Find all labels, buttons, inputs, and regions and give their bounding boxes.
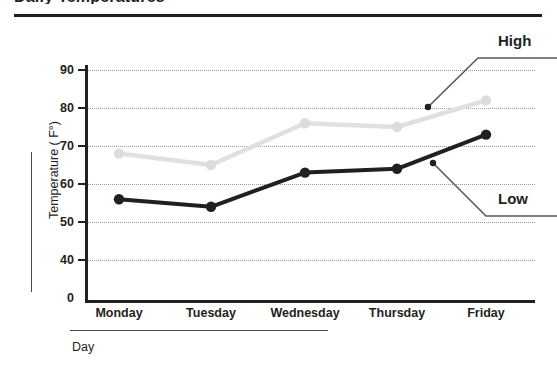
high-point-monday [114,148,124,158]
high-series-label: High [498,32,531,49]
y-tick-label-80: 80 [40,101,74,115]
x-axis-line [85,300,535,303]
title-divider [14,14,542,17]
x-axis-title-rule [70,330,328,331]
x-tick-label-monday: Monday [78,306,160,320]
y-tick-mark-90 [78,69,85,71]
series-layer [88,65,535,300]
y-tick-mark-40 [78,259,85,261]
y-tick-label-90: 90 [40,63,74,77]
chart-root: Daily Temperatures Temperature ( F°) 90 … [0,0,557,368]
y-tick-label-70: 70 [40,139,74,153]
y-tick-mark-60 [78,183,85,185]
x-axis-title: Day [72,340,94,354]
y-tick-mark-70 [78,145,85,147]
y-tick-label-60: 60 [40,177,74,191]
x-tick-label-tuesday: Tuesday [170,306,252,320]
high-point-friday [481,95,491,105]
y-tick-mark-50 [78,221,85,223]
low-point-monday [114,194,124,204]
y-axis-title-rule [31,152,32,292]
low-point-tuesday [206,202,216,212]
x-tick-label-thursday: Thursday [354,306,440,320]
low-point-wednesday [300,167,310,177]
y-tick-label-40: 40 [40,253,74,267]
y-tick-label-50: 50 [40,215,74,229]
y-tick-mark-80 [78,107,85,109]
high-point-wednesday [300,118,310,128]
y-tick-label-0: 0 [40,291,74,305]
low-series-label: Low [498,190,528,207]
chart-title: Daily Temperatures [14,0,165,4]
low-point-thursday [392,164,402,174]
high-point-thursday [392,122,402,132]
high-point-tuesday [206,160,216,170]
low-series-markers [114,129,491,212]
x-tick-label-wednesday: Wednesday [256,306,354,320]
plot-area [88,65,535,300]
low-point-friday [481,129,491,139]
x-tick-label-friday: Friday [448,306,524,320]
